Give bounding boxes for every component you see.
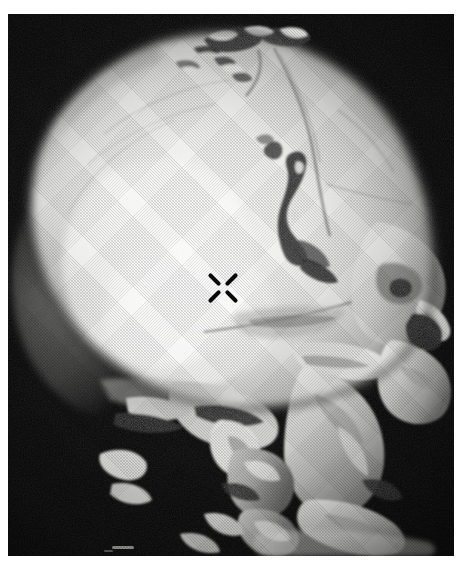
- scale-dash-mark: [112, 546, 134, 549]
- skull-volume-render: [8, 14, 454, 556]
- ct-figure-plate: [8, 14, 454, 556]
- figure-page: parietal bone frontal bone occipital bon…: [0, 0, 464, 569]
